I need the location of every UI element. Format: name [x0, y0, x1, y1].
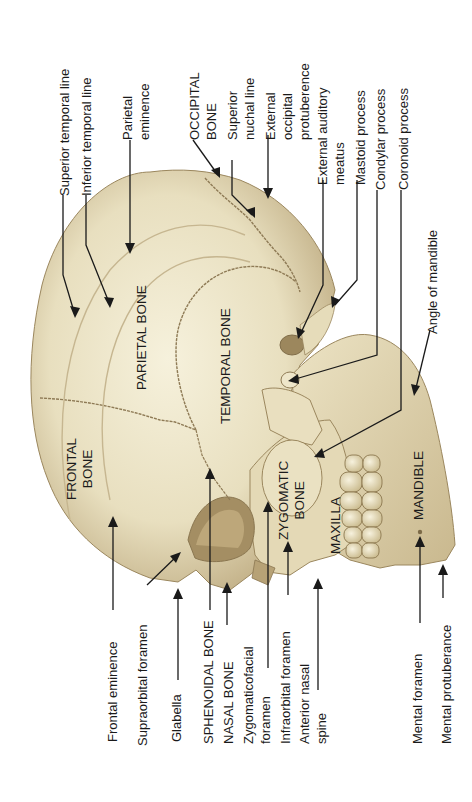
label-coronoid-process: Coronoid process	[395, 88, 412, 190]
label-occipital-bone: OCCIPITAL BONE	[186, 72, 220, 140]
frontal-bone-label: FRONTAL BONE	[64, 438, 96, 500]
label-zygomaticofacial-foramen: Zygomaticofacial foramen	[240, 646, 274, 744]
label-nasal-bone: NASAL BONE	[220, 661, 237, 744]
label-condylar-process: Condylar process	[372, 89, 389, 190]
mental-foramen-dot	[418, 530, 422, 534]
label-mental-protuberance: Mental protuberance	[438, 625, 455, 744]
label-parietal-eminence: Parietal eminence	[119, 84, 153, 140]
parietal-bone-label: PARIETAL BONE	[134, 285, 150, 390]
label-glabella: Glabella	[168, 694, 185, 742]
label-infraorbital-foramen: Infraorbital foramen	[277, 631, 294, 744]
label-supraorbital-foramen: Supraorbital foramen	[134, 625, 151, 746]
maxilla-label: MAXILLA	[328, 497, 344, 554]
label-angle-of-mandible: Angle of mandible	[424, 230, 441, 334]
label-inferior-temporal-line: Inferior temporal line	[78, 78, 95, 197]
label-mastoid-process: Mastoid process	[352, 90, 369, 185]
temporal-bone-label: TEMPORAL BONE	[218, 308, 234, 424]
label-superior-temporal-line: Superior temporal line	[56, 69, 73, 196]
label-superior-nuchal-line: Superior nuchal line	[224, 78, 258, 140]
label-frontal-eminence: Frontal eminence	[104, 642, 121, 742]
mandible-label: MANDIBLE	[411, 451, 427, 520]
label-external-auditory-meatus: External auditory meatus	[314, 87, 348, 185]
label-anterior-nasal-spine: Anterior nasal spine	[296, 664, 330, 744]
label-mental-foramen: Mental foramen	[409, 654, 426, 744]
external-auditory-meatus-shape	[280, 335, 304, 355]
skull-lateral-view-diagram: FRONTAL BONE PARIETAL BONE TEMPORAL BONE…	[0, 0, 472, 802]
zygomatic-bone-label: ZYGOMATIC BONE	[276, 461, 308, 540]
label-external-occipital-protuberence: External occipital protuberence	[262, 63, 313, 140]
label-sphenoidal-bone: SPHENOIDAL BONE	[200, 620, 217, 744]
